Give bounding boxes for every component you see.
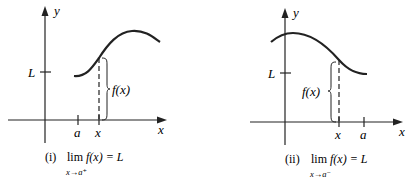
limit-diagram: y L a x x f(x) (i) lim f(x) = L x→a⁺ y L… [0,0,415,191]
caption-number: (ii) [285,152,300,166]
y-axis-arrow-icon [282,8,289,18]
brace-icon [102,58,110,120]
caption-number: (i) [45,150,56,164]
caption-subscript: x→a⁺ [65,167,87,177]
brace-icon [328,62,336,122]
caption-expression: f(x) = L [330,152,368,166]
bracket-label: f(x) [112,82,130,97]
y-axis-arrow-icon [42,6,49,16]
y-axis-label: y [52,3,60,18]
a-label: a [74,125,81,140]
panel-right-hand-limit: y L a x x f(x) (i) lim f(x) = L x→a⁺ [8,3,167,177]
x-tick-label: x [94,125,101,140]
L-label: L [27,65,35,80]
a-label: a [360,127,367,142]
bracket-label: f(x) [302,84,320,99]
y-axis-label: y [291,5,299,20]
caption-lim: lim [311,152,328,166]
function-curve [74,31,160,76]
caption-lim: lim [67,150,84,164]
x-tick-label: x [334,127,341,142]
caption-subscript: x→a⁻ [309,169,331,179]
panel-left-hand-limit: y L x a x f(x) (ii) lim f(x) = L x→a⁻ [250,5,405,179]
x-axis-label: x [398,124,405,139]
L-label: L [267,66,275,81]
x-axis-label: x [157,122,164,137]
caption-expression: f(x) = L [86,150,124,164]
